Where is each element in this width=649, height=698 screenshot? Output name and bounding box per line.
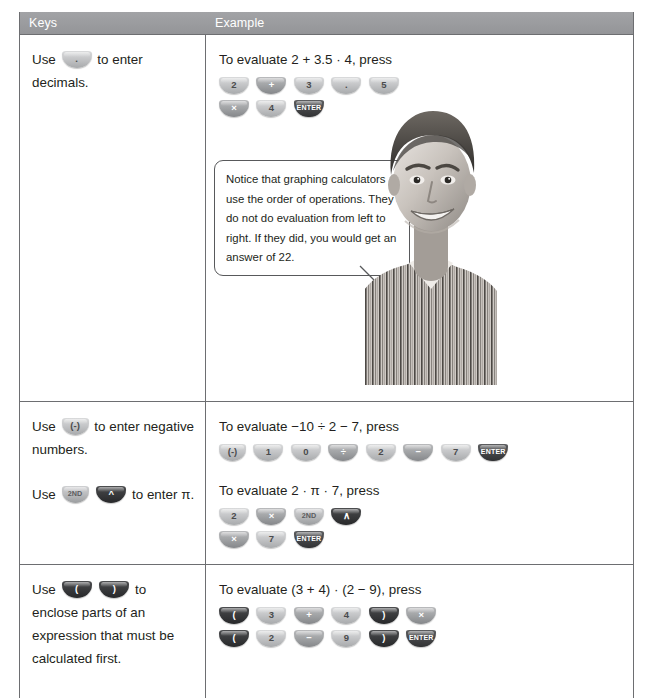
key-minus[interactable]: −	[294, 630, 324, 647]
caret-power-key[interactable]: ^	[96, 486, 126, 503]
worksheet-page: Keys Example Use . to enter decimals. To…	[0, 0, 649, 698]
keys-text-before: Use	[32, 52, 56, 67]
key-right-paren[interactable]: )	[369, 607, 399, 624]
keys-text-before: Use	[32, 419, 56, 434]
example-lead-row1: To evaluate 2 + 3.5 · 4, press	[219, 48, 623, 71]
keypad-row: (-) 1 0 ÷ 2 − 7 ENTER	[219, 444, 623, 465]
key-4[interactable]: 4	[331, 607, 361, 624]
keys-description-row1: Use . to enter decimals.	[32, 48, 195, 94]
key-7[interactable]: 7	[441, 444, 471, 461]
key-plus[interactable]: +	[256, 77, 286, 94]
keypad-row: 2 × 2ND ∧	[219, 508, 623, 529]
key-enter[interactable]: ENTER	[478, 444, 508, 461]
left-paren-key[interactable]: (	[62, 581, 92, 598]
example-lead-row2: To evaluate −10 ÷ 2 − 7, press	[219, 415, 623, 438]
key-left-paren[interactable]: (	[219, 630, 249, 647]
example-lead-row3: To evaluate (3 + 4) · (2 − 9), press	[219, 578, 623, 601]
key-multiply[interactable]: ×	[406, 607, 436, 624]
table-row: Use ( ) to enclose parts of an expressio…	[20, 564, 633, 698]
key-multiply[interactable]: ×	[219, 531, 249, 548]
key-3[interactable]: 3	[294, 77, 324, 94]
keys-description-row3: Use ( ) to enclose parts of an expressio…	[32, 578, 195, 670]
key-minus[interactable]: −	[403, 444, 433, 461]
negative-sign-key[interactable]: (-)	[62, 418, 89, 435]
keypad-row: × 7 ENTER	[219, 531, 623, 552]
calculator-keys-table: Keys Example Use . to enter decimals. To…	[19, 12, 634, 698]
key-caret[interactable]: ∧	[331, 508, 361, 525]
key-7[interactable]: 7	[256, 531, 286, 548]
decimal-point-key[interactable]: .	[62, 51, 92, 68]
key-4[interactable]: 4	[256, 100, 286, 117]
key-second[interactable]: 2ND	[294, 508, 324, 525]
keys-description-row2b: Use 2ND ^ to enter π.	[32, 483, 195, 506]
key-enter[interactable]: ENTER	[294, 100, 324, 117]
example-cell-row1: To evaluate 2 + 3.5 · 4, press 2 + 3 . 5…	[206, 35, 633, 401]
keys-description-row2a: Use (-) to enter negative numbers.	[32, 415, 195, 461]
key-enter[interactable]: ENTER	[294, 531, 324, 548]
key-1[interactable]: 1	[253, 444, 283, 461]
keys-cell-row3: Use ( ) to enclose parts of an expressio…	[20, 565, 206, 698]
keypad-row: ( 3 + 4 ) ×	[219, 607, 623, 628]
example-lead-row2b: To evaluate 2 · π · 7, press	[219, 479, 623, 502]
column-header-example: Example	[206, 12, 633, 34]
table-row: Use (-) to enter negative numbers. Use 2…	[20, 401, 633, 564]
key-0[interactable]: 0	[291, 444, 321, 461]
keys-text-after-2: to enter π.	[132, 487, 194, 502]
keys-cell-row1: Use . to enter decimals.	[20, 35, 206, 401]
key-2[interactable]: 2	[366, 444, 396, 461]
table-header-row: Keys Example	[20, 12, 633, 34]
table-row: Use . to enter decimals. To evaluate 2 +…	[20, 34, 633, 401]
key-right-paren[interactable]: )	[369, 630, 399, 647]
key-9[interactable]: 9	[331, 630, 361, 647]
second-function-key[interactable]: 2ND	[62, 486, 89, 503]
key-left-paren[interactable]: (	[219, 607, 249, 624]
right-paren-key[interactable]: )	[99, 581, 129, 598]
key-5[interactable]: 5	[369, 77, 399, 94]
keys-cell-row2: Use (-) to enter negative numbers. Use 2…	[20, 402, 206, 564]
key-multiply[interactable]: ×	[256, 508, 286, 525]
key-multiply[interactable]: ×	[219, 100, 249, 117]
example-cell-row2: To evaluate −10 ÷ 2 − 7, press (-) 1 0 ÷…	[206, 402, 633, 564]
key-enter[interactable]: ENTER	[406, 630, 436, 647]
column-header-keys: Keys	[20, 12, 206, 34]
key-3[interactable]: 3	[256, 607, 286, 624]
key-2[interactable]: 2	[256, 630, 286, 647]
keys-text-after: to enter negative numbers.	[32, 419, 194, 457]
keys-text-before-2: Use	[32, 487, 56, 502]
key-2[interactable]: 2	[219, 508, 249, 525]
keys-text-before: Use	[32, 582, 56, 597]
key-negative[interactable]: (-)	[219, 444, 246, 461]
student-photo	[365, 75, 497, 385]
key-2[interactable]: 2	[219, 77, 249, 94]
key-decimal[interactable]: .	[331, 77, 361, 94]
key-plus[interactable]: +	[294, 607, 324, 624]
example-cell-row3: To evaluate (3 + 4) · (2 − 9), press ( 3…	[206, 565, 633, 698]
keypad-row: ( 2 − 9 ) ENTER	[219, 630, 623, 651]
key-divide[interactable]: ÷	[328, 444, 358, 461]
